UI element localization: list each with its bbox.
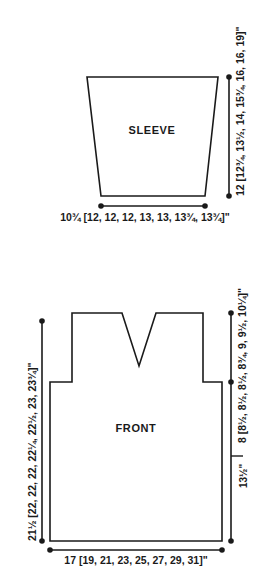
sleeve-height-dot-top — [226, 74, 232, 80]
front-total-height-dimension-group: 21½ [22, 22, 22, 22¼, 22½, 23, 23¾]" — [26, 318, 45, 544]
front-total-height-label: 21½ [22, 22, 22, 22¼, 22½, 23, 23¾]" — [26, 363, 38, 541]
front-yoke-height-label: 8 [8½, 8½, 8½, 8¾, 9, 9½, 10¼]" — [236, 288, 248, 443]
sleeve-width-label: 10¾ [12, 12, 12, 13, 13, 13¾, 13¾]" — [60, 211, 230, 223]
front-width-dot-right — [219, 547, 225, 553]
sleeve-height-dimension-group: 12 [12¾, 13½, 14, 15¾, 16, 16, 19]" — [226, 26, 246, 198]
front-width-dot-left — [47, 547, 53, 553]
front-total-height-dot-top — [39, 318, 45, 324]
front-body-dot-bottom — [228, 538, 234, 544]
front-width-label: 17 [19, 21, 23, 25, 27, 29, 31]" — [64, 554, 207, 566]
sleeve-height-dot-bottom — [226, 193, 232, 199]
front-width-dimension-group: 17 [19, 21, 23, 25, 27, 29, 31]" — [47, 547, 225, 566]
sleeve-width-dimension-group: 10¾ [12, 12, 12, 13, 13, 13¾, 13¾]" — [60, 203, 230, 223]
front-body-height-label: 13½" — [238, 464, 249, 488]
front-body-height-dimension-group: 13½" — [231, 456, 249, 488]
schematic-canvas: SLEEVE 12 [12¾, 13½, 14, 15¾, 16, 16, 19… — [0, 0, 267, 568]
sleeve-label: SLEEVE — [128, 124, 175, 136]
sleeve-height-label: 12 [12¾, 13½, 14, 15¾, 16, 16, 19]" — [234, 26, 246, 196]
sleeve-outline — [87, 77, 218, 196]
front-yoke-dot-bottom — [228, 379, 234, 385]
schematic-diagram: SLEEVE 12 [12¾, 13½, 14, 15¾, 16, 16, 19… — [0, 0, 267, 568]
sleeve-width-dot-right — [202, 203, 208, 209]
sleeve-width-dot-left — [98, 203, 104, 209]
front-total-height-dot-bottom — [39, 538, 45, 544]
sleeve-piece-group: SLEEVE — [87, 77, 218, 196]
front-label: FRONT — [116, 422, 157, 434]
front-piece-group: FRONT — [50, 313, 222, 541]
front-yoke-height-dimension-group: 8 [8½, 8½, 8½, 8¾, 9, 9½, 10¼]" — [228, 288, 248, 544]
front-yoke-dot-top — [228, 310, 234, 316]
